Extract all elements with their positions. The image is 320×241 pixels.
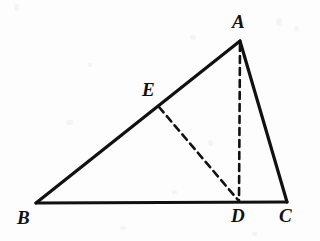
- vertex-label-E: E: [142, 80, 155, 99]
- altitude-AD: [239, 44, 240, 201]
- scan-speck: [66, 120, 73, 125]
- dashed-segments: [159, 44, 240, 201]
- scan-speck: [190, 35, 196, 40]
- geometry-figure: A B C D E: [0, 0, 320, 241]
- vertex-label-D: D: [231, 206, 245, 225]
- vertex-label-C: C: [279, 206, 292, 225]
- side-BC: [36, 202, 287, 203]
- scan-speck: [208, 140, 213, 146]
- solid-segments: [36, 41, 287, 203]
- vertex-label-A: A: [232, 12, 245, 31]
- figure-canvas: [0, 0, 320, 241]
- scan-speck: [172, 190, 177, 194]
- scan-speck: [276, 18, 282, 26]
- scan-speck: [88, 63, 92, 67]
- scan-speck: [14, 4, 19, 11]
- scan-speck: [120, 226, 126, 230]
- vertex-label-B: B: [17, 208, 30, 227]
- scan-speck: [252, 232, 257, 236]
- side-AC: [240, 41, 287, 202]
- scan-speck: [294, 26, 299, 31]
- cevian-ED: [159, 107, 238, 200]
